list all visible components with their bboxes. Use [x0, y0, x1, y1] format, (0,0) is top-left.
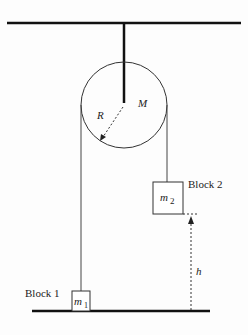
radius-label: R [96, 109, 104, 121]
height-label: h [196, 265, 202, 277]
block-2-name: Block 2 [188, 178, 223, 190]
radius-arrow [103, 107, 123, 137]
block-2-mass-label: m [160, 191, 168, 203]
pulley-mass-label: M [137, 97, 148, 109]
radius-arrowhead-icon [100, 134, 106, 141]
block-1-mass-label: m [74, 295, 82, 307]
height-arrowhead-icon [188, 216, 194, 224]
block-1-name: Block 1 [25, 287, 60, 299]
pulley-diagram: M R Block 2 m 2 h Block 1 m 1 [0, 0, 248, 335]
block-2-mass-subscript: 2 [170, 196, 175, 206]
block-1-mass-subscript: 1 [84, 301, 88, 310]
block-2 [153, 182, 183, 214]
